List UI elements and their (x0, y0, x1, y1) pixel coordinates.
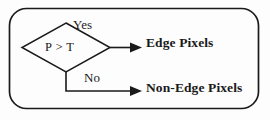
diagram-vector-layer (0, 0, 270, 120)
output-label-edge-pixels: Edge Pixels (146, 36, 213, 50)
output-label-non-edge-pixels: Non-Edge Pixels (146, 81, 242, 95)
branch-label-no: No (84, 71, 100, 84)
branch-label-yes: Yes (73, 18, 92, 31)
flowchart-diagram: P > T Yes No Edge Pixels Non-Edge Pixels (0, 0, 270, 120)
decision-condition-label: P > T (45, 41, 74, 54)
